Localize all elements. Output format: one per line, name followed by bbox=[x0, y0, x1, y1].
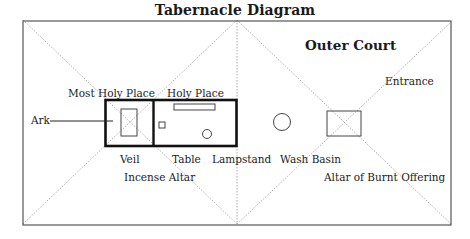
ark-label: Ark bbox=[31, 115, 50, 126]
table-label: Table bbox=[172, 154, 201, 165]
wash-basin-shape bbox=[274, 114, 291, 131]
lampstand-shape bbox=[203, 130, 212, 139]
table-shape bbox=[174, 104, 215, 110]
altar-of-burnt-offering-label: Altar of Burnt Offering bbox=[324, 172, 445, 183]
outer-court-label: Outer Court bbox=[305, 37, 396, 53]
wash-basin-label: Wash Basin bbox=[280, 154, 341, 165]
veil-label: Veil bbox=[120, 154, 140, 165]
tabernacle-diagram bbox=[0, 0, 470, 239]
entrance-label: Entrance bbox=[385, 76, 434, 87]
altar-of-burnt-offering-shape bbox=[327, 111, 361, 136]
incense-altar-label: Incense Altar bbox=[124, 172, 195, 183]
tabernacle-box bbox=[106, 100, 237, 146]
most-holy-place-label: Most Holy Place bbox=[68, 88, 155, 99]
lampstand-label: Lampstand bbox=[212, 154, 271, 165]
holy-place-label: Holy Place bbox=[167, 88, 224, 99]
ark-shape bbox=[121, 109, 137, 136]
incense-altar-shape bbox=[159, 122, 165, 128]
